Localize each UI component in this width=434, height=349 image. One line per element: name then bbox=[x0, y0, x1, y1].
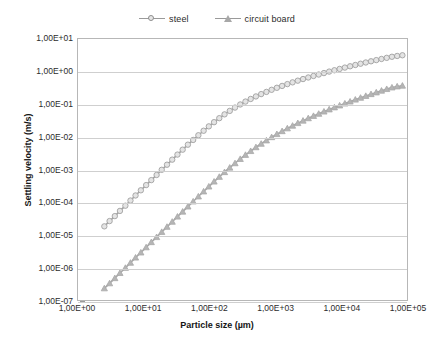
y-axis-title: Settling velocity (m/s) bbox=[23, 65, 33, 255]
data-point-circle bbox=[175, 152, 180, 157]
data-point-circle bbox=[300, 76, 305, 81]
y-axis-tick-labels: 1,00E+011,00E+001,00E-011,00E-021,00E-03… bbox=[8, 38, 73, 301]
grid-line bbox=[78, 203, 407, 204]
data-point-circle bbox=[384, 55, 389, 60]
data-point-circle bbox=[368, 59, 373, 64]
data-point-circle bbox=[107, 218, 112, 223]
data-point-circle bbox=[347, 64, 352, 69]
x-axis-tick-label: 1,00E+03 bbox=[257, 303, 294, 313]
data-point-circle bbox=[185, 142, 190, 147]
grid-line bbox=[78, 138, 407, 139]
legend-entry-circuit-board[interactable]: circuit board bbox=[215, 14, 295, 24]
x-axis-tick-label: 1,00E+01 bbox=[125, 303, 162, 313]
x-axis-title: Particle size (µm) bbox=[0, 320, 434, 330]
legend-label-circuit-board: circuit board bbox=[245, 14, 295, 24]
data-point-circle bbox=[117, 208, 122, 213]
legend-label-steel: steel bbox=[169, 14, 189, 24]
y-axis-tick-label: 1,00E+00 bbox=[11, 66, 73, 76]
data-point-circle bbox=[269, 87, 274, 92]
data-point-circle bbox=[285, 81, 290, 86]
data-point-circle bbox=[379, 56, 384, 61]
data-point-circle bbox=[279, 83, 284, 88]
data-point-circle bbox=[358, 61, 363, 66]
data-point-circle bbox=[394, 53, 399, 58]
y-axis-tick-label: 1,00E-05 bbox=[11, 230, 73, 240]
data-point-circle bbox=[211, 119, 216, 124]
data-point-circle bbox=[400, 53, 405, 58]
data-point-circle bbox=[222, 112, 227, 117]
y-axis-tick-label: 1,00E-01 bbox=[11, 99, 73, 109]
data-point-circle bbox=[248, 96, 253, 101]
y-axis-tick-label: 1,00E-04 bbox=[11, 197, 73, 207]
grid-line bbox=[78, 269, 407, 270]
data-point-circle bbox=[337, 66, 342, 71]
series-line bbox=[104, 86, 402, 289]
y-axis-tick-label: 1,00E+01 bbox=[11, 33, 73, 43]
data-point-circle bbox=[143, 182, 148, 187]
data-point-circle bbox=[102, 224, 107, 229]
series-line bbox=[104, 55, 402, 226]
data-point-circle bbox=[274, 85, 279, 90]
data-point-circle bbox=[243, 99, 248, 104]
data-point-circle bbox=[201, 128, 206, 133]
x-axis-tick-label: 1,00E+05 bbox=[390, 303, 427, 313]
y-axis-tick-label: 1,00E-03 bbox=[11, 165, 73, 175]
grid-line bbox=[78, 171, 407, 172]
y-axis-tick-label: 1,00E-02 bbox=[11, 132, 73, 142]
data-point-circle bbox=[311, 73, 316, 78]
data-point-circle bbox=[170, 157, 175, 162]
data-point-circle bbox=[138, 188, 143, 193]
data-point-circle bbox=[306, 75, 311, 80]
plot-area bbox=[77, 38, 408, 301]
chart-legend: steel circuit board bbox=[0, 14, 434, 24]
data-point-circle bbox=[180, 147, 185, 152]
data-point-circle bbox=[206, 124, 211, 129]
data-point-circle bbox=[363, 60, 368, 65]
circle-marker-icon bbox=[139, 14, 165, 24]
data-point-circle bbox=[217, 115, 222, 120]
data-point-circle bbox=[389, 54, 394, 59]
data-point-circle bbox=[342, 65, 347, 70]
grid-line bbox=[78, 236, 407, 237]
grid-line bbox=[78, 72, 407, 73]
x-axis-tick-label: 1,00E+02 bbox=[191, 303, 228, 313]
legend-entry-steel[interactable]: steel bbox=[139, 14, 189, 24]
data-point-circle bbox=[164, 162, 169, 167]
x-axis-tick-label: 1,00E+04 bbox=[323, 303, 360, 313]
data-point-circle bbox=[227, 108, 232, 113]
data-point-circle bbox=[264, 89, 269, 94]
grid-line bbox=[78, 105, 407, 106]
data-point-circle bbox=[112, 213, 117, 218]
data-point-circle bbox=[290, 80, 295, 85]
data-point-circle bbox=[154, 172, 159, 177]
data-point-circle bbox=[295, 78, 300, 83]
data-point-circle bbox=[374, 57, 379, 62]
data-point-circle bbox=[253, 94, 258, 99]
settling-velocity-chart: steel circuit board 1,00E+011,00E+001,00… bbox=[0, 0, 434, 349]
data-point-circle bbox=[149, 177, 154, 182]
data-point-circle bbox=[258, 91, 263, 96]
y-axis-tick-label: 1,00E-06 bbox=[11, 263, 73, 273]
x-axis-tick-label: 1,00E+00 bbox=[59, 303, 96, 313]
data-point-circle bbox=[133, 193, 138, 198]
data-point-circle bbox=[353, 62, 358, 67]
x-axis-tick-labels: 1,00E+001,00E+011,00E+021,00E+031,00E+04… bbox=[77, 303, 408, 319]
triangle-marker-icon bbox=[215, 14, 241, 24]
